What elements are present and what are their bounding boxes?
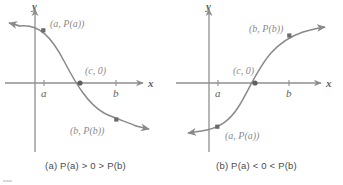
curve-b-left-arrow <box>188 130 207 133</box>
marker-point-a <box>215 125 219 129</box>
tick-label-a-b: a <box>215 87 221 99</box>
tick-label-a-a: a <box>41 87 47 99</box>
x-axis-label-b: x <box>325 77 332 89</box>
point-label-b-b: (b, P(b)) <box>249 23 284 35</box>
caption-b: (b) P(a) < 0 < P(b) <box>171 160 342 171</box>
curve-a-left-arrow <box>9 23 20 26</box>
marker-point-a <box>41 28 45 32</box>
marker-point-c <box>252 80 257 85</box>
marker-point-b <box>114 117 118 121</box>
y-axis-label-b: y <box>204 0 211 12</box>
curve-a-right-arrow <box>136 126 149 129</box>
plot-b: x y a b (b, P(b)) (c, 0) (a, P(a)) <box>171 0 342 160</box>
tick-label-b-b: b <box>286 87 292 99</box>
y-axis-label-a: y <box>30 0 37 12</box>
x-axis-label-a: x <box>147 77 154 89</box>
plot-a: x y a b (a, P(a)) (c, 0) (b, P(b)) <box>0 0 171 160</box>
caption-a: (a) P(a) > 0 > P(b) <box>0 160 171 171</box>
point-label-a-b: (a, P(a)) <box>225 130 260 142</box>
marker-point-c <box>77 80 82 85</box>
tick-label-b-a: b <box>113 87 119 99</box>
corner-artifact <box>3 180 12 182</box>
panel-a: x y a b (a, P(a)) (c, 0) (b, P(b)) (a) P… <box>0 0 171 185</box>
point-label-b-a: (b, P(b)) <box>70 125 105 137</box>
marker-point-b <box>287 33 291 37</box>
point-label-a-a: (a, P(a)) <box>50 18 85 30</box>
curve-a <box>20 26 136 126</box>
curve-b-right-arrow <box>303 27 325 32</box>
figure-container: x y a b (a, P(a)) (c, 0) (b, P(b)) (a) P… <box>0 0 343 185</box>
point-label-c-b: (c, 0) <box>233 65 255 77</box>
panel-b: x y a b (b, P(b)) (c, 0) (a, P(a)) (b) P… <box>171 0 342 185</box>
point-label-c-a: (c, 0) <box>85 65 107 77</box>
